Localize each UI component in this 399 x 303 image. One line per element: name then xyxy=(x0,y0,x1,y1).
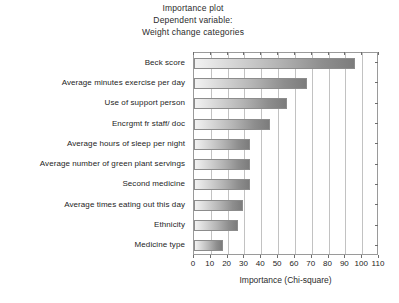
x-axis-tick-top xyxy=(193,52,194,55)
x-axis-tick xyxy=(311,255,312,258)
x-axis-tick-top xyxy=(243,52,244,55)
y-axis-tick xyxy=(375,184,378,185)
y-axis-label: Encrgmt fr staff/ doc xyxy=(112,113,185,133)
x-axis-tick xyxy=(378,255,379,258)
y-axis-label: Use of support person xyxy=(105,93,185,113)
x-axis-tick xyxy=(210,255,211,258)
x-axis-tick-label: 110 xyxy=(372,259,385,268)
x-axis-tick-label: 100 xyxy=(354,259,367,268)
y-axis-tick xyxy=(375,82,378,83)
chart-title: Importance plot Dependent variable: Weig… xyxy=(100,2,286,38)
y-axis-label: Ethnicity xyxy=(154,214,185,234)
x-axis-tick-label: 20 xyxy=(222,259,231,268)
chart-title-line-3: Weight change categories xyxy=(100,26,286,38)
x-axis-tick-top xyxy=(361,52,362,55)
x-axis-tick-top xyxy=(311,52,312,55)
y-axis-tick xyxy=(375,62,378,63)
x-axis-tick-label: 60 xyxy=(289,259,298,268)
bar xyxy=(194,220,238,231)
bar-row xyxy=(194,94,377,114)
bar-row xyxy=(194,195,377,215)
y-axis-tick xyxy=(375,143,378,144)
bar-row xyxy=(194,215,377,235)
x-axis-tick-label: 10 xyxy=(205,259,214,268)
y-axis-label: Beck score xyxy=(145,52,185,72)
y-axis-tick xyxy=(375,103,378,104)
y-axis-tick xyxy=(375,123,378,124)
x-axis-tick xyxy=(344,255,345,258)
y-axis-tick xyxy=(375,204,378,205)
y-axis-label: Average minutes exercise per day xyxy=(62,72,185,92)
chart-title-line-1: Importance plot xyxy=(100,2,286,14)
x-axis-tick xyxy=(328,255,329,258)
y-axis-tick xyxy=(375,245,378,246)
bar-row xyxy=(194,53,377,73)
x-axis-tick-top xyxy=(260,52,261,55)
bar xyxy=(194,78,307,89)
plot-area xyxy=(193,52,378,255)
x-axis-tick-label: 70 xyxy=(306,259,315,268)
bar xyxy=(194,58,355,69)
x-axis-tick xyxy=(294,255,295,258)
bar-row xyxy=(194,134,377,154)
x-axis-title: Importance (Chi-square) xyxy=(193,275,378,285)
y-axis-label: Second medicine xyxy=(122,174,185,194)
bar xyxy=(194,200,243,211)
x-axis-tick-label: 90 xyxy=(340,259,349,268)
bar-row xyxy=(194,155,377,175)
x-axis-tick-top xyxy=(277,52,278,55)
bar xyxy=(194,119,270,130)
bar-row xyxy=(194,114,377,134)
x-axis-tick-top xyxy=(294,52,295,55)
bar-row xyxy=(194,236,377,256)
bar xyxy=(194,159,250,170)
x-axis-tick-label: 0 xyxy=(191,259,195,268)
bar xyxy=(194,179,250,190)
x-axis-tick-top xyxy=(328,52,329,55)
bar-row xyxy=(194,73,377,93)
y-axis-label: Medicine type xyxy=(135,235,185,255)
x-axis-tick xyxy=(227,255,228,258)
x-axis-tick-top xyxy=(378,52,379,55)
x-axis-tick-label: 50 xyxy=(273,259,282,268)
x-axis-tick-top xyxy=(210,52,211,55)
x-axis-tick xyxy=(243,255,244,258)
x-axis-tick-label: 30 xyxy=(239,259,248,268)
x-axis-tick-top xyxy=(344,52,345,55)
x-axis-tick xyxy=(277,255,278,258)
x-axis-tick-top xyxy=(227,52,228,55)
y-axis-tick xyxy=(375,225,378,226)
y-axis-label: Average number of green plant servings xyxy=(40,154,185,174)
x-axis-tick-label: 40 xyxy=(256,259,265,268)
bar xyxy=(194,98,287,109)
bar-series xyxy=(194,53,377,254)
chart-title-line-2: Dependent variable: xyxy=(100,14,286,26)
y-axis-category-labels: Beck scoreAverage minutes exercise per d… xyxy=(0,52,190,255)
x-axis-tick xyxy=(193,255,194,258)
importance-plot-figure: Importance plot Dependent variable: Weig… xyxy=(0,0,399,303)
x-axis-tick xyxy=(260,255,261,258)
bar-row xyxy=(194,175,377,195)
y-axis-tick xyxy=(375,164,378,165)
x-axis-tick-label: 80 xyxy=(323,259,332,268)
bar xyxy=(194,139,250,150)
y-axis-label: Average times eating out this day xyxy=(64,194,185,214)
bar xyxy=(194,240,223,251)
x-axis-tick xyxy=(361,255,362,258)
y-axis-label: Average hours of sleep per night xyxy=(67,133,185,153)
